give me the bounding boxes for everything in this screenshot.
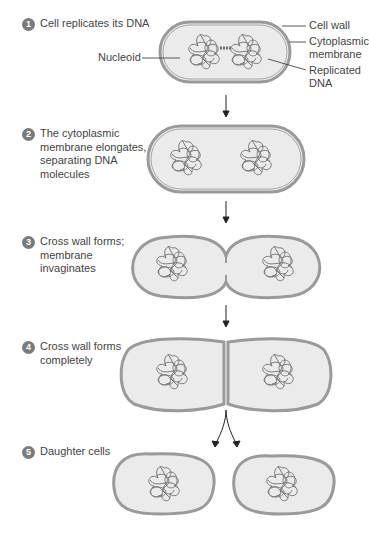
step-3-badge: 3 <box>22 236 35 249</box>
step-4-badge: 4 <box>22 341 35 354</box>
step-1-text: Cell replicates its DNA <box>40 17 170 31</box>
step-1-badge: 1 <box>22 18 35 31</box>
step-5-badge: 5 <box>22 446 35 459</box>
cell-step-3 <box>133 236 320 297</box>
step-2-badge: 2 <box>22 128 35 141</box>
step-5: 5 Daughter cells <box>22 445 160 459</box>
step-2: 2 The cytoplasmic membrane elongates, se… <box>22 127 160 181</box>
step-3-text: Cross wall forms; membrane invaginates <box>40 235 160 276</box>
step-4-text: Cross wall forms completely <box>40 340 160 367</box>
label-nucleoid: Nucleoid <box>98 51 141 64</box>
cell-step-2 <box>148 126 304 192</box>
label-cell-wall: Cell wall <box>309 19 350 32</box>
step-2-text: The cytoplasmic membrane elongates, sepa… <box>40 127 160 181</box>
step-5-text: Daughter cells <box>40 445 160 459</box>
step-4: 4 Cross wall forms completely <box>22 340 160 367</box>
label-cytoplasmic-membrane: Cytoplasmic membrane <box>309 35 369 61</box>
step-1: 1 Cell replicates its DNA <box>22 17 170 31</box>
step-3: 3 Cross wall forms; membrane invaginates <box>22 235 160 276</box>
label-replicated-dna: Replicated DNA <box>309 64 361 90</box>
daughter-cells <box>114 454 334 514</box>
cell-step-1 <box>160 22 290 82</box>
